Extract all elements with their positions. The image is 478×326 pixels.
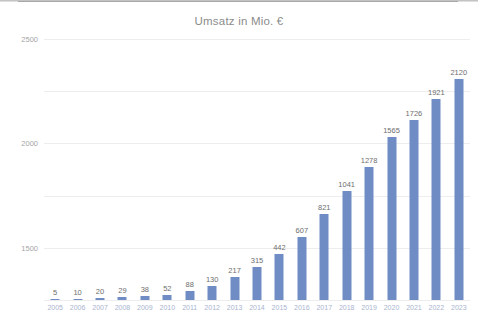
bar-group[interactable]: 15652020: [380, 39, 402, 300]
bar[interactable]: [118, 297, 127, 300]
bar-group[interactable]: 8212017: [313, 39, 335, 300]
bar-value-label: 29: [118, 286, 126, 295]
x-axis-tick-label: 2023: [451, 304, 467, 311]
x-axis-tick-label: 2013: [227, 304, 243, 311]
bar[interactable]: [297, 237, 306, 300]
x-axis-tick-label: 2017: [316, 304, 332, 311]
bar[interactable]: [387, 137, 396, 300]
y-axis-tick-label: 1500: [21, 243, 38, 252]
bar-group[interactable]: 52005: [44, 39, 66, 300]
x-axis-tick-label: 2015: [272, 304, 288, 311]
bar-group[interactable]: 21202023: [448, 39, 470, 300]
bar-group[interactable]: 19212022: [425, 39, 447, 300]
x-axis-tick-label: 2011: [182, 304, 197, 311]
bar-group[interactable]: 522010: [156, 39, 178, 300]
bar-value-label: 315: [251, 256, 264, 265]
bar-value-label: 5: [53, 288, 57, 297]
bar[interactable]: [163, 295, 172, 300]
bar-group[interactable]: 1302012: [201, 39, 223, 300]
bar-value-label: 442: [273, 243, 286, 252]
x-axis-tick-label: 2007: [92, 304, 108, 311]
bar[interactable]: [230, 277, 239, 300]
x-axis-tick-label: 2020: [384, 304, 400, 311]
bar[interactable]: [73, 299, 82, 300]
bar[interactable]: [275, 254, 284, 300]
bar[interactable]: [208, 286, 217, 300]
bar-group[interactable]: 202007: [89, 39, 111, 300]
bar-value-label: 10: [73, 288, 81, 297]
bar-value-label: 88: [186, 280, 194, 289]
bar-value-label: 2120: [450, 68, 467, 77]
bar-group[interactable]: 102006: [66, 39, 88, 300]
bar[interactable]: [409, 120, 418, 300]
bar[interactable]: [51, 299, 60, 300]
x-axis-tick-label: 2008: [115, 304, 131, 311]
x-axis-tick-label: 2005: [47, 304, 63, 311]
bar-value-label: 52: [163, 284, 171, 293]
x-axis-tick-label: 2006: [70, 304, 86, 311]
bar-value-label: 1921: [428, 88, 445, 97]
chart-title: Umsatz in Mio. €: [0, 15, 478, 27]
bar-group[interactable]: 17262021: [403, 39, 425, 300]
x-axis-tick-label: 2022: [429, 304, 445, 311]
x-axis-tick-label: 2016: [294, 304, 310, 311]
chart-container: Umsatz in Mio. € 05001000150020002500 52…: [0, 0, 478, 326]
gridline: 0: [44, 300, 470, 301]
x-axis-tick-label: 2019: [361, 304, 377, 311]
x-axis-tick-label: 2009: [137, 304, 153, 311]
bar-value-label: 1726: [406, 109, 423, 118]
bar[interactable]: [454, 79, 463, 300]
bar-group[interactable]: 292008: [111, 39, 133, 300]
bar[interactable]: [342, 191, 351, 300]
bar-value-label: 130: [206, 275, 219, 284]
bar-value-label: 821: [318, 203, 331, 212]
bar[interactable]: [432, 99, 441, 300]
bar-value-label: 1041: [338, 180, 355, 189]
bar-group[interactable]: 12782019: [358, 39, 380, 300]
bar-value-label: 607: [296, 226, 309, 235]
bar[interactable]: [185, 291, 194, 300]
bar-group[interactable]: 10412018: [335, 39, 357, 300]
bar-value-label: 1278: [361, 156, 378, 165]
x-axis-tick-label: 2014: [249, 304, 265, 311]
x-axis-tick-label: 2012: [204, 304, 220, 311]
plot-area: 05001000150020002500 5200510200620200729…: [44, 39, 470, 300]
x-axis-tick-label: 2018: [339, 304, 355, 311]
bar-value-label: 38: [141, 285, 149, 294]
bar-group[interactable]: 882011: [179, 39, 201, 300]
x-axis-tick-label: 2021: [406, 304, 422, 311]
bar[interactable]: [365, 167, 374, 300]
bar-group[interactable]: 382009: [134, 39, 156, 300]
bar-series: 5200510200620200729200838200952201088201…: [44, 39, 470, 300]
bar-group[interactable]: 4422015: [268, 39, 290, 300]
x-axis-tick-label: 2010: [160, 304, 176, 311]
bar[interactable]: [320, 214, 329, 300]
y-axis-tick-label: 2000: [21, 139, 38, 148]
bar[interactable]: [252, 267, 261, 300]
scan-top-edge: [0, 0, 478, 2]
bar-value-label: 20: [96, 287, 104, 296]
y-axis-tick-label: 2500: [21, 35, 38, 44]
bar-value-label: 1565: [383, 126, 400, 135]
bar-group[interactable]: 6072016: [291, 39, 313, 300]
bar-group[interactable]: 3152014: [246, 39, 268, 300]
bar-group[interactable]: 2172013: [223, 39, 245, 300]
bar-value-label: 217: [228, 266, 241, 275]
bar[interactable]: [96, 298, 105, 300]
bar[interactable]: [140, 296, 149, 300]
